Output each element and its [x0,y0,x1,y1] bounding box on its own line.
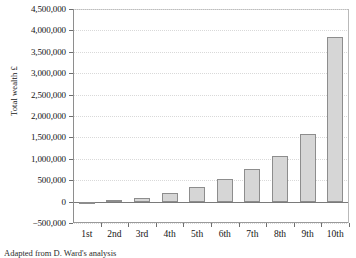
y-axis-tick-label: 500,000 [37,175,66,185]
figure-caption: Adapted from D. Ward's analysis [4,248,352,258]
y-axis-tick-label: −500,000 [32,218,66,228]
bar [217,179,233,202]
x-axis-tick-label: 10th [327,229,344,239]
x-axis-tick [349,223,350,227]
y-axis-tick [69,202,73,203]
bar [189,187,205,202]
gridline [74,95,348,96]
x-axis-tick-label: 8th [274,229,286,239]
x-axis-tick-label: 7th [246,229,258,239]
x-axis-tick-label: 9th [302,229,314,239]
x-axis-tick-label: 3rd [136,229,149,239]
y-axis-tick [69,137,73,138]
y-axis-tick [69,180,73,181]
gridline [74,30,348,31]
bar [162,193,178,202]
bar [134,198,150,202]
x-axis-tick [294,223,295,227]
gridline [74,116,348,117]
x-axis-tick [266,223,267,227]
x-axis-tick-label: 5th [191,229,203,239]
plot-border-right [348,9,349,223]
bar [106,200,122,202]
x-axis-tick-label: 6th [219,229,231,239]
y-axis-tick [69,30,73,31]
bar [272,156,288,201]
plot-area: −500,0000500,0001,000,0001,500,0002,000,… [73,9,349,223]
y-axis-tick [69,52,73,53]
y-axis-tick [69,95,73,96]
x-axis-tick [211,223,212,227]
x-axis-tick [128,223,129,227]
y-axis-tick-label: 2,000,000 [31,111,66,121]
y-axis-tick-label: 4,500,000 [31,4,66,14]
y-axis-tick-label: 1,000,000 [31,154,66,164]
gridline [74,52,348,53]
x-axis-tick-label: 1st [81,229,92,239]
bar [300,134,316,202]
y-axis-title: Total wealth £ [9,31,19,151]
y-axis-tick-label: 2,500,000 [31,90,66,100]
y-axis-tick-label: 0 [62,197,66,207]
bar [244,169,260,202]
y-axis-tick-label: 3,500,000 [31,47,66,57]
y-axis-tick-label: 3,000,000 [31,68,66,78]
x-axis-tick [183,223,184,227]
x-axis-tick [101,223,102,227]
y-axis-tick [69,73,73,74]
x-axis-tick-label: 4th [164,229,176,239]
bar [327,37,343,202]
y-axis-tick [69,223,73,224]
x-axis-tick [321,223,322,227]
y-axis-tick [69,116,73,117]
x-axis-tick [239,223,240,227]
y-axis-tick [69,159,73,160]
chart-figure: Total wealth £ −500,0000500,0001,000,000… [0,0,356,258]
y-axis-tick-label: 1,500,000 [31,132,66,142]
gridline [74,9,348,10]
x-axis-tick [156,223,157,227]
bar [79,202,95,204]
y-axis-tick-label: 4,000,000 [31,25,66,35]
y-axis-tick [69,9,73,10]
gridline [74,73,348,74]
x-axis-tick-label: 2nd [107,229,121,239]
